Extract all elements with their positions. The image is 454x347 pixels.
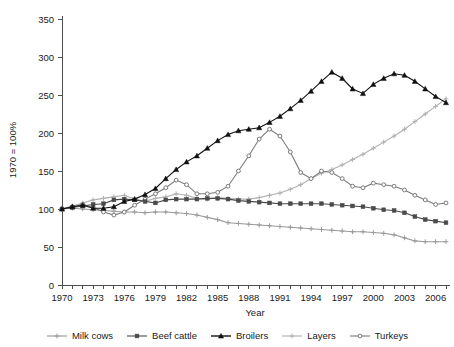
line-marker-triangle-black-icon bbox=[210, 331, 232, 341]
line-marker-circle-gray-icon bbox=[349, 331, 371, 341]
legend-label: Broilers bbox=[236, 330, 268, 341]
y-axis-title: 1970 = 100% bbox=[7, 121, 18, 178]
y-tick-label: 50 bbox=[43, 242, 54, 253]
y-tick-label: 250 bbox=[38, 90, 54, 101]
line-marker-cross-gray-icon bbox=[281, 331, 303, 341]
legend-label: Turkeys bbox=[375, 330, 408, 341]
line-marker-square-dark-icon bbox=[126, 331, 148, 341]
legend-label: Beef cattle bbox=[152, 330, 197, 341]
y-tick-label: 200 bbox=[38, 128, 54, 139]
x-tick-label: 2000 bbox=[363, 292, 384, 303]
legend-item-beef-cattle[interactable]: Beef cattle bbox=[126, 330, 197, 341]
y-axis: 050100150200250300350 bbox=[38, 14, 62, 291]
legend-label: Milk cows bbox=[72, 330, 113, 341]
x-axis-title: Year bbox=[245, 307, 264, 318]
x-tick-label: 1970 bbox=[51, 292, 72, 303]
line-marker-cross-light-icon bbox=[46, 331, 68, 341]
x-axis: 1970197319761979198219851988199119941997… bbox=[51, 285, 450, 303]
chart-legend: Milk cowsBeef cattleBroilersLayersTurkey… bbox=[0, 330, 454, 341]
x-tick-label: 1985 bbox=[207, 292, 228, 303]
y-tick-label: 150 bbox=[38, 166, 54, 177]
legend-label: Layers bbox=[307, 330, 336, 341]
x-tick-label: 1979 bbox=[145, 292, 166, 303]
series-layer bbox=[59, 70, 448, 244]
series-broilers bbox=[59, 70, 448, 212]
y-tick-label: 350 bbox=[38, 14, 54, 25]
line-chart-plot: 050100150200250300350 197019731976197919… bbox=[0, 0, 454, 347]
x-tick-label: 1973 bbox=[83, 292, 104, 303]
x-tick-label: 1991 bbox=[269, 292, 290, 303]
x-tick-label: 1997 bbox=[332, 292, 353, 303]
series-milk-cows bbox=[60, 206, 449, 244]
x-tick-label: 1988 bbox=[238, 292, 259, 303]
x-tick-label: 2003 bbox=[394, 292, 415, 303]
legend-item-milk-cows[interactable]: Milk cows bbox=[46, 330, 113, 341]
x-tick-label: 2006 bbox=[425, 292, 446, 303]
legend-item-layers[interactable]: Layers bbox=[281, 330, 336, 341]
series-beef-cattle bbox=[60, 196, 448, 224]
y-tick-label: 300 bbox=[38, 52, 54, 63]
legend-item-turkeys[interactable]: Turkeys bbox=[349, 330, 408, 341]
legend-item-broilers[interactable]: Broilers bbox=[210, 330, 268, 341]
series-turkeys bbox=[60, 127, 448, 217]
y-tick-label: 0 bbox=[49, 280, 54, 291]
series-layers bbox=[60, 96, 449, 211]
chart-container: 050100150200250300350 197019731976197919… bbox=[0, 0, 454, 347]
x-tick-label: 1994 bbox=[301, 292, 322, 303]
y-tick-label: 100 bbox=[38, 204, 54, 215]
x-tick-label: 1976 bbox=[114, 292, 135, 303]
x-tick-label: 1982 bbox=[176, 292, 197, 303]
